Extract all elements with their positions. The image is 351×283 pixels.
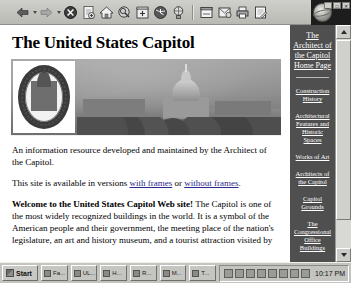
taskbar-item-label: R...: [142, 270, 151, 276]
nav-item-architects-of-the-capitol[interactable]: Architects of the Capitol: [292, 170, 333, 186]
edit-button[interactable]: [252, 4, 269, 21]
taskbar-item-label: M...: [172, 270, 182, 276]
nav-item-capitol-grounds[interactable]: Capitol Grounds: [292, 195, 333, 211]
welcome-paragraph: Welcome to the United States Capitol Web…: [12, 198, 274, 246]
close-button[interactable]: ✕: [342, 2, 350, 9]
page-content: The United States Capitol: [0, 25, 290, 262]
taskbar-item[interactable]: H...: [100, 265, 127, 281]
window-controls: _ □ ✕: [324, 2, 350, 9]
taskbar-item-label: Fa...: [53, 270, 65, 276]
stop-button[interactable]: [62, 4, 79, 21]
history-button[interactable]: [152, 4, 169, 21]
display-icon[interactable]: [279, 269, 288, 278]
nav-item-architectural-features[interactable]: Architectural Features and Historic Spac…: [292, 112, 333, 144]
vertical-scrollbar[interactable]: [335, 25, 351, 262]
print-button[interactable]: [234, 4, 251, 21]
toolbar-separator: [192, 5, 194, 20]
taskbar-item[interactable]: T...: [189, 265, 216, 281]
page-title: The United States Capitol: [12, 33, 280, 53]
frames-middle-text: or: [172, 178, 184, 188]
capitol-banner-image: [11, 59, 281, 136]
site-navigation-panel: The Architect of the Capitol Home Page C…: [290, 25, 335, 262]
minimize-button[interactable]: _: [324, 2, 332, 9]
fullscreen-button[interactable]: [198, 4, 215, 21]
start-button-label: Start: [16, 270, 32, 277]
window-icon: [103, 270, 110, 277]
desktop-screen: _ □ ✕ The United States Capitol: [0, 0, 351, 283]
start-button[interactable]: Start: [2, 265, 38, 281]
refresh-button[interactable]: [80, 4, 97, 21]
frames-prefix-text: This site is available in versions: [12, 178, 129, 188]
home-button[interactable]: [98, 4, 115, 21]
taskbar-item[interactable]: M...: [160, 265, 187, 281]
taskbar-item[interactable]: Fa...: [41, 265, 68, 281]
taskbar-item[interactable]: R...: [130, 265, 157, 281]
nav-item-works-of-art[interactable]: Works of Art: [292, 153, 333, 161]
page-viewport: The United States Capitol: [0, 25, 351, 262]
architect-of-the-capitol-seal-icon: [13, 61, 75, 133]
without-frames-link[interactable]: without frames: [184, 178, 238, 188]
printer-tray-icon[interactable]: [268, 269, 277, 278]
clock[interactable]: 10:17 PM: [315, 270, 345, 277]
scrollbar-thumb[interactable]: [336, 40, 351, 220]
taskbar-item-label: T...: [201, 270, 209, 276]
window-icon: [192, 270, 199, 277]
volume-icon[interactable]: [224, 269, 233, 278]
scroll-down-button[interactable]: [336, 248, 351, 262]
search-tray-icon[interactable]: [257, 269, 266, 278]
taskbar-item-label: UL...: [83, 270, 96, 276]
windows-taskbar: Start Fa... UL... H... R... M... T...: [0, 262, 351, 283]
nav-divider: [296, 77, 329, 78]
search-button[interactable]: [116, 4, 133, 21]
toolbar-button-group: [14, 3, 270, 22]
nav-item-construction-history[interactable]: Construction History: [292, 87, 333, 103]
task-scheduler-icon[interactable]: [301, 269, 310, 278]
mail-button[interactable]: [216, 4, 233, 21]
channels-button[interactable]: [170, 4, 187, 21]
battery-icon[interactable]: [290, 269, 299, 278]
intro-paragraph: An information resource developed and ma…: [12, 144, 274, 168]
network-icon[interactable]: [235, 269, 244, 278]
taskbar-item[interactable]: UL...: [71, 265, 98, 281]
window-icon: [44, 270, 51, 277]
capitol-building-graphic: [77, 87, 281, 135]
browser-window: _ □ ✕ The United States Capitol: [0, 0, 351, 262]
toolbar-branding-area: _ □ ✕: [311, 0, 351, 25]
back-button[interactable]: [14, 4, 31, 21]
windows-flag-icon: [6, 269, 14, 277]
welcome-lead-text: Welcome to the United States Capitol Web…: [12, 199, 193, 209]
frames-suffix-text: .: [238, 178, 240, 188]
taskbar-item-label: H...: [112, 270, 121, 276]
back-dropdown-caret[interactable]: [32, 4, 37, 21]
window-icon: [74, 270, 81, 277]
forward-dropdown-caret[interactable]: [56, 4, 61, 21]
maximize-button[interactable]: □: [333, 2, 341, 9]
modem-icon[interactable]: [246, 269, 255, 278]
system-tray: 10:17 PM: [219, 265, 349, 282]
window-icon: [133, 270, 140, 277]
window-icon: [163, 270, 170, 277]
nav-item-congressional-office-buildings[interactable]: The Congressional Office Buildings: [292, 220, 333, 252]
favorites-button[interactable]: [134, 4, 151, 21]
nav-home-link[interactable]: The Architect of the Capitol Home Page: [292, 31, 333, 71]
scroll-up-button[interactable]: [336, 25, 351, 39]
frames-paragraph: This site is available in versions with …: [12, 177, 274, 189]
forward-button[interactable]: [38, 4, 55, 21]
browser-toolbar: _ □ ✕: [0, 0, 351, 25]
with-frames-link[interactable]: with frames: [129, 178, 172, 188]
